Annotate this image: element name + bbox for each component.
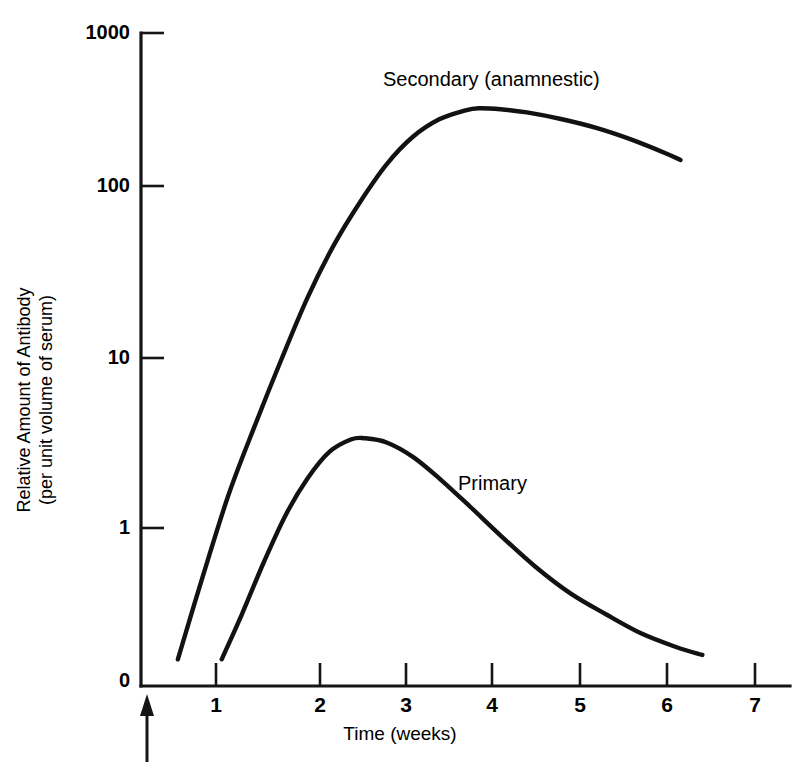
series-curve-secondary bbox=[178, 108, 681, 659]
x-axis-title: Time (weeks) bbox=[343, 723, 456, 744]
x-tick-label-6: 6 bbox=[661, 693, 673, 716]
x-tick-label-7: 7 bbox=[749, 693, 761, 716]
series-curve-primary bbox=[222, 438, 703, 660]
y-tick-group bbox=[141, 33, 164, 528]
antibody-response-chart: 1000 100 10 1 0 1 2 3 4 5 6 7 Secondary … bbox=[0, 0, 799, 762]
y-axis-title-group: Relative Amount of Antibody (per unit vo… bbox=[14, 287, 56, 512]
y-tick-label-1: 1 bbox=[119, 516, 130, 538]
y-tick-label-group: 1000 100 10 1 0 bbox=[86, 21, 131, 691]
x-tick-label-2: 2 bbox=[314, 693, 326, 716]
y-tick-label-10: 10 bbox=[108, 346, 130, 368]
y-tick-label-1000: 1000 bbox=[86, 21, 131, 43]
x-tick-label-5: 5 bbox=[574, 693, 586, 716]
x-tick-label-group: 1 2 3 4 5 6 7 bbox=[210, 693, 761, 716]
x-tick-label-1: 1 bbox=[210, 693, 222, 716]
y-axis-title-line2: (per unit volume of serum) bbox=[36, 295, 56, 505]
series-label-primary: Primary bbox=[458, 472, 527, 494]
arrow-head bbox=[140, 694, 154, 716]
x-tick-label-3: 3 bbox=[400, 693, 412, 716]
x-tick-label-4: 4 bbox=[486, 693, 498, 716]
chart-canvas: 1000 100 10 1 0 1 2 3 4 5 6 7 Secondary … bbox=[0, 0, 799, 762]
y-tick-label-100: 100 bbox=[97, 174, 130, 196]
x-tick-group bbox=[216, 663, 755, 686]
series-label-secondary: Secondary (anamnestic) bbox=[383, 68, 600, 90]
y-tick-label-0: 0 bbox=[119, 669, 130, 691]
y-axis-title-line1: Relative Amount of Antibody bbox=[14, 287, 34, 512]
antigen-administration-arrow bbox=[140, 694, 154, 762]
